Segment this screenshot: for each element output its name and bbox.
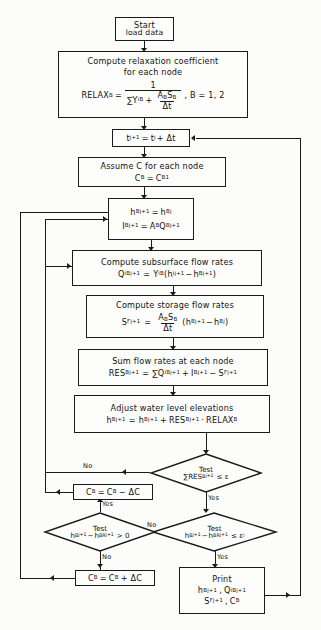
storage-title: Compute storage flow rates [116,301,234,310]
sum-title: Sum flow rates at each node [112,357,234,366]
rail-right-vert [300,138,301,596]
sum-t2-sup: j+1 [198,370,208,376]
print-r2-comma: , [225,597,228,606]
timestep-tail: + Δt [157,134,176,143]
node-print: Print hBj+1 , QiBj+1 SFj+1 , CB [179,567,265,614]
init-r2-Q-sup: j+1 [170,223,180,229]
rail-inner-left-vert [45,219,46,493]
decision-test-eps: Test hBj+1 − hBRj+1 ≤ εi [152,512,277,552]
decision-test-residual: Test ∑ RESBj+1 ≤ ε [150,453,262,493]
sum-lhs: RES [109,369,125,378]
node-assume-c: Assume C for each node CB = CB1 [78,157,226,187]
adj-t3-sub: B [234,417,238,423]
label-testgt0-yes: Yes [102,500,113,508]
sum-t1: Q [158,369,165,378]
relax-line2: for each node [124,68,183,77]
relax-numerator: 1 [149,81,158,89]
adj-t2: RES [169,416,185,425]
storage-fraction: ABSB Δt [156,313,179,332]
cplus-op: + ΔC [121,574,142,583]
arrowhead-right-rail [286,592,290,598]
adj-plus: + [160,416,167,425]
arrowhead-cplus-out [50,575,54,581]
relax-line1: Compute relaxation coefficient [88,57,219,66]
rail-outer-left-top [20,212,108,213]
relax-denominator: ∑YiB + ABSB Δt [125,90,182,110]
cminus-equation: CB = CB − ΔC [86,488,140,497]
relax-lhs: RELAX [81,91,109,100]
subsurface-equation: QiBj+1 = YiB ( hij+1 − hBj+1 ) [118,270,216,279]
cplus-equation: CB = CB + ΔC [88,574,142,583]
testeps-expression: hBj+1 − hBRj+1 ≤ εi [185,532,245,539]
print-title: Print [212,575,232,584]
cplus-equals: = [100,574,107,583]
node-init-h-i: hBj+1 = hBj IBj+1 = ABQBj+1 [108,198,194,240]
assumec-equation: CB = CB1 [135,174,169,183]
sub-equals: = [143,270,150,279]
storage-equation: SFj+1 = ABSB Δt ( hBj+1 − hBj ) [122,313,229,332]
node-c-plus: CB = CB + ΔC [75,570,155,586]
sum-lhs-sup: j+1 [129,370,139,376]
label-testgt0-no: No [102,553,111,561]
edge-testres-no-horiz [45,472,150,473]
init-r2-equals: = [141,222,148,231]
sum-plus: + [182,369,189,378]
relax-den-dt: Δt [160,101,173,110]
testeps-op-sub: i [243,533,244,538]
testres-op: ≤ ε [217,473,229,480]
cminus-op: − ΔC [119,488,140,497]
sto-equals: = [144,318,151,327]
adj-t3: RELAX [206,416,234,425]
decision-test-gt0: Test hBj+1 − hBRj+1 > 0 [44,512,156,552]
assumec-equals: = [147,174,154,183]
testeps-t2-sup: j+1 [220,533,228,538]
init-r2-lhs-sup: j+1 [129,223,139,229]
testres-lhs-sup: j+1 [205,474,213,479]
relax-equation: RELAXB = 1 ∑YiB + ABSB Δt [81,81,224,109]
arrowhead-cplus-in [97,564,103,568]
assumec-line1: Assume C for each node [100,162,203,171]
assumec-rhs-sub: B1 [162,175,170,181]
relax-tail: , B = 1, 2 [184,91,224,100]
label-testres-no: No [83,462,92,470]
adj-t2-sup: j+1 [189,417,199,423]
testeps-op: ≤ ε [231,532,243,539]
node-adjust-levels: Adjust water level elevations hBj+1 = hB… [74,395,270,433]
node-sum-flow-rates: Sum flow rates at each node RESBj+1 = ∑ … [78,349,268,386]
relax-den-plus: + [145,96,152,104]
sto-t1-sup: j+1 [195,319,205,325]
init-r2-Q: Q [159,222,166,231]
relax-fraction: 1 ∑YiB + ABSB Δt [125,81,182,109]
sub-t2-sup: j+1 [203,271,213,277]
label-testres-yes: Yes [208,494,219,502]
adjust-equation: hBj+1 = hBj+1 + RESBj+1 · RELAXB [106,416,237,425]
cminus-rhs-sub: B [113,489,117,495]
testeps-t1-sup: j+1 [192,533,200,538]
print-r1-Q-sup: j+1 [236,588,246,594]
print-row1: hBj+1 , QiBj+1 [198,586,246,595]
start-line2: load data [126,29,164,37]
print-r2-C-sub: B [236,598,240,604]
testeps-label: Test hBj+1 − hBRj+1 ≤ εi [152,512,277,552]
edge-cplus-out [20,578,75,579]
relax-den-sum: ∑Y [127,96,138,104]
print-r1-h-sup: j+1 [207,588,217,594]
sum-t1-sup: j+1 [170,370,180,376]
testeps-t2-sub: BR [213,533,220,538]
sub-t1-sup: j+1 [174,271,184,277]
assumec-lhs-sub: B [141,175,145,181]
sto-S-sub: B [173,316,177,322]
adjust-title: Adjust water level elevations [111,404,234,413]
node-subsurface-flow: Compute subsurface flow rates QiBj+1 = Y… [72,250,262,286]
init-row2: IBj+1 = ABQBj+1 [122,222,180,231]
arrowhead-testres-no [122,469,126,475]
relax-den-sum-sub: iB [138,97,144,103]
node-storage-flow: Compute storage flow rates SFj+1 = ABSB … [86,295,264,338]
relax-den-S-sub: B [173,94,177,100]
adj-lhs-sup: j+1 [116,417,126,423]
node-timestep: tj+1 = tj + Δt [112,129,190,147]
sto-lhs-sup: j+1 [130,319,140,325]
node-start: Start load data [115,17,174,41]
relax-equals: = [115,91,122,100]
rail-right-top [196,138,301,139]
